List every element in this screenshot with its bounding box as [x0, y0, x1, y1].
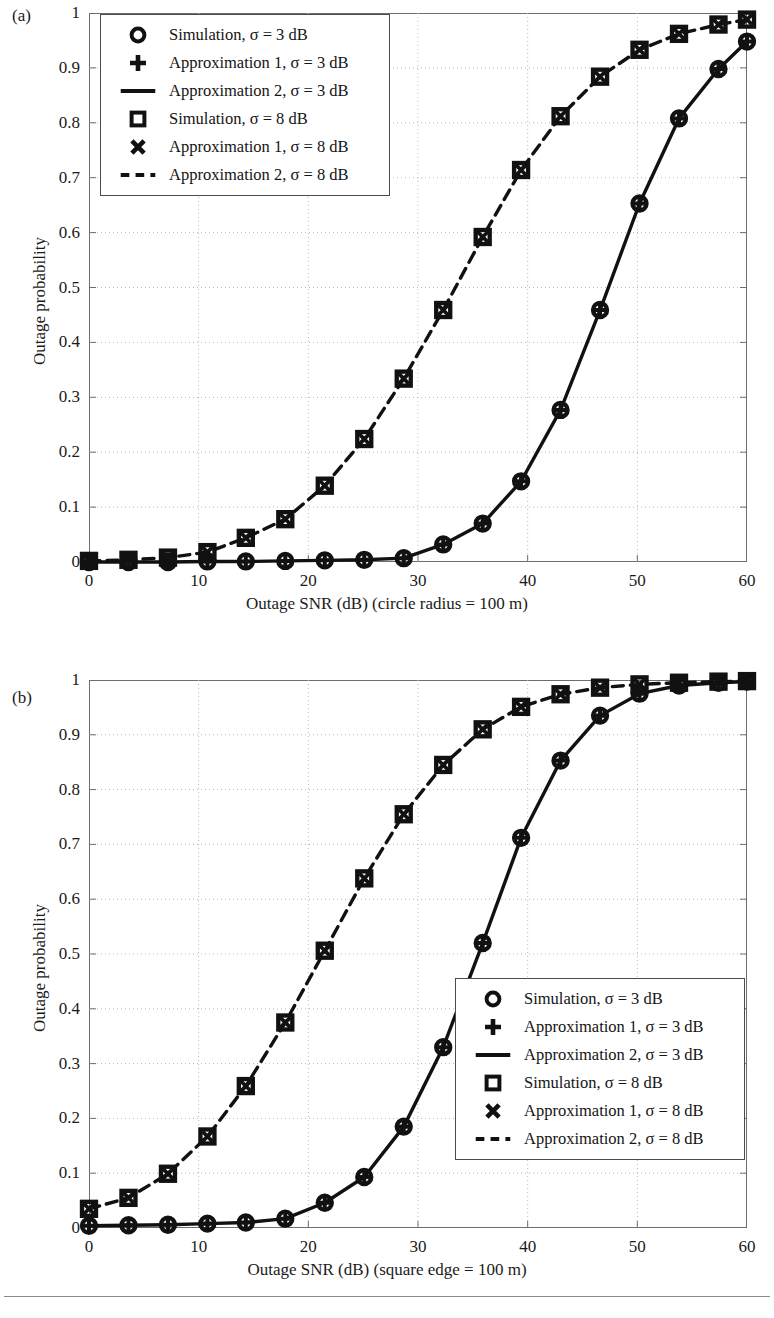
legend-marker-plus — [462, 1016, 524, 1038]
legend-item[interactable]: Simulation, σ = 3 dB — [107, 21, 379, 49]
legend-marker-cross — [462, 1100, 524, 1122]
x-tick-label: 40 — [498, 1238, 558, 1255]
legend-marker-square-open — [107, 108, 169, 130]
legend-item[interactable]: Approximation 1, σ = 3 dB — [462, 1013, 734, 1041]
y-tick-label: 1 — [10, 4, 80, 21]
y-tick-label: 0.7 — [10, 835, 80, 852]
footer-rule — [4, 1296, 770, 1297]
marker-cross — [132, 141, 144, 153]
marker-cross — [203, 1132, 213, 1142]
legend-label: Approximation 2, σ = 8 dB — [169, 165, 349, 185]
marker-square-open — [487, 1077, 500, 1090]
y-axis-title-a: Outage probability — [30, 237, 50, 365]
legend-label: Approximation 1, σ = 8 dB — [169, 137, 349, 157]
x-tick-label: 20 — [278, 572, 338, 589]
x-tick-label: 20 — [278, 1238, 338, 1255]
plot-canvas-b — [0, 660, 774, 1280]
legend-label: Approximation 1, σ = 3 dB — [169, 53, 349, 73]
y-tick-label: 1 — [10, 671, 80, 688]
legend-label: Approximation 2, σ = 3 dB — [169, 81, 349, 101]
y-tick-label: 0.7 — [10, 169, 80, 186]
legend-label: Approximation 1, σ = 3 dB — [524, 1017, 704, 1037]
legend-item[interactable]: Simulation, σ = 8 dB — [462, 1069, 734, 1097]
y-tick-label: 0.3 — [10, 388, 80, 405]
marker-cross — [359, 434, 369, 444]
legend-marker-dashed-line — [462, 1128, 524, 1150]
legend-label: Simulation, σ = 3 dB — [524, 989, 663, 1009]
marker-cross — [399, 809, 409, 819]
y-tick-label: 0.1 — [10, 498, 80, 515]
x-tick-label: 0 — [59, 572, 119, 589]
legend-marker-square-open — [462, 1072, 524, 1094]
legend-item[interactable]: Approximation 1, σ = 8 dB — [107, 133, 379, 161]
legend-item[interactable]: Approximation 1, σ = 3 dB — [107, 49, 379, 77]
legend-item[interactable]: Approximation 2, σ = 3 dB — [107, 77, 379, 105]
marker-cross — [595, 72, 605, 82]
y-tick-label: 0.2 — [10, 1109, 80, 1126]
legend-label: Simulation, σ = 8 dB — [524, 1073, 663, 1093]
panel-a: (a) 00.10.20.30.40.50.60.70.80.91 010203… — [0, 0, 774, 640]
legend-marker-cross — [107, 136, 169, 158]
marker-cross — [399, 374, 409, 384]
x-tick-label: 10 — [169, 1238, 229, 1255]
marker-cross — [556, 111, 566, 121]
x-axis-title-b: Outage SNR (dB) (square edge = 100 m) — [0, 1260, 774, 1280]
legend-item[interactable]: Approximation 1, σ = 8 dB — [462, 1097, 734, 1125]
panel-b: (b) 00.10.20.30.40.50.60.70.80.91 010203… — [0, 660, 774, 1280]
marker-cross — [516, 165, 526, 175]
legend-b: Simulation, σ = 3 dBApproximation 1, σ =… — [455, 978, 745, 1160]
marker-cross — [163, 1169, 173, 1179]
marker-cross — [487, 1105, 499, 1117]
marker-circle-open — [487, 993, 500, 1006]
legend-marker-dashed-line — [107, 164, 169, 186]
x-tick-label: 60 — [717, 1238, 774, 1255]
marker-square-open — [132, 113, 145, 126]
legend-item[interactable]: Approximation 2, σ = 8 dB — [107, 161, 379, 189]
y-tick-label: 0.8 — [10, 114, 80, 131]
x-tick-label: 10 — [169, 572, 229, 589]
marker-cross — [241, 1081, 251, 1091]
legend-label: Approximation 2, σ = 3 dB — [524, 1045, 704, 1065]
legend-marker-circle-open — [462, 988, 524, 1010]
marker-cross — [280, 1018, 290, 1028]
legend-marker-circle-open — [107, 24, 169, 46]
y-tick-label: 0.3 — [10, 1055, 80, 1072]
marker-plus — [485, 1019, 501, 1035]
y-tick-label: 0.8 — [10, 781, 80, 798]
x-tick-label: 30 — [388, 572, 448, 589]
x-tick-label: 30 — [388, 1238, 448, 1255]
legend-marker-plus — [107, 52, 169, 74]
x-tick-label: 50 — [607, 572, 667, 589]
y-axis-title-b: Outage probability — [30, 904, 50, 1032]
y-tick-label: 0.9 — [10, 59, 80, 76]
x-tick-label: 0 — [59, 1238, 119, 1255]
y-tick-label: 0.2 — [10, 443, 80, 460]
legend-label: Simulation, σ = 3 dB — [169, 25, 308, 45]
legend-item[interactable]: Approximation 2, σ = 8 dB — [462, 1125, 734, 1153]
marker-circle-open — [132, 29, 145, 42]
x-axis-title-a: Outage SNR (dB) (circle radius = 100 m) — [0, 594, 774, 614]
marker-cross — [478, 724, 488, 734]
legend-item[interactable]: Simulation, σ = 8 dB — [107, 105, 379, 133]
x-tick-label: 50 — [607, 1238, 667, 1255]
marker-cross — [320, 481, 330, 491]
y-tick-label: 0 — [10, 1219, 80, 1236]
legend-label: Simulation, σ = 8 dB — [169, 109, 308, 129]
legend-marker-solid-line — [107, 80, 169, 102]
legend-label: Approximation 1, σ = 8 dB — [524, 1101, 704, 1121]
legend-label: Approximation 2, σ = 8 dB — [524, 1129, 704, 1149]
x-tick-label: 40 — [498, 572, 558, 589]
y-tick-label: 0.9 — [10, 726, 80, 743]
marker-plus — [130, 55, 146, 71]
marker-cross — [438, 760, 448, 770]
y-tick-label: 0 — [10, 553, 80, 570]
legend-marker-solid-line — [462, 1044, 524, 1066]
legend-item[interactable]: Simulation, σ = 3 dB — [462, 985, 734, 1013]
x-tick-label: 60 — [717, 572, 774, 589]
legend-a: Simulation, σ = 3 dBApproximation 1, σ =… — [100, 14, 390, 196]
y-tick-label: 0.1 — [10, 1164, 80, 1181]
legend-item[interactable]: Approximation 2, σ = 3 dB — [462, 1041, 734, 1069]
